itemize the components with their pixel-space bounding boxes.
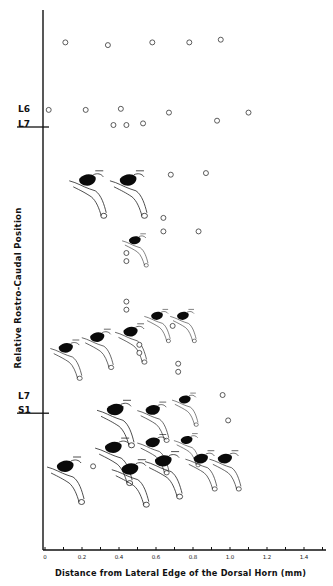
x-tick-label: 0.4 bbox=[115, 554, 124, 560]
open-circle-point bbox=[124, 307, 129, 312]
paw-outline bbox=[141, 213, 147, 218]
receptive-field-fill bbox=[105, 442, 122, 453]
x-tick-label: 1.2 bbox=[263, 554, 272, 560]
open-circle-point bbox=[46, 107, 51, 112]
receptive-field-fill bbox=[79, 174, 96, 185]
open-circle-point bbox=[124, 123, 129, 128]
open-circle-point bbox=[215, 118, 220, 123]
y-axis-label: Relative Rostro-Caudal Position bbox=[13, 188, 23, 388]
hindlimb-drawing bbox=[144, 309, 170, 342]
open-circle-point bbox=[137, 342, 142, 347]
open-circle-point bbox=[137, 350, 142, 355]
open-circle-point bbox=[166, 110, 171, 115]
segment-label-upper-l6: L6 bbox=[18, 104, 30, 114]
x-tick-label: 1.0 bbox=[226, 554, 235, 560]
limb-outline bbox=[189, 464, 213, 489]
segment-label-upper-l7: L7 bbox=[18, 391, 30, 401]
receptive-field-fill bbox=[129, 236, 141, 244]
open-circle-point bbox=[218, 37, 223, 42]
paw-outline bbox=[144, 264, 148, 268]
limb-outline bbox=[149, 468, 177, 497]
hindlimb-drawing bbox=[50, 340, 82, 380]
limb-outline bbox=[136, 460, 146, 466]
receptive-field-fill bbox=[146, 438, 160, 448]
receptive-field-fill bbox=[181, 436, 193, 444]
paw-outline bbox=[109, 365, 114, 369]
open-circle-point bbox=[111, 123, 116, 128]
paw-outline bbox=[164, 438, 169, 442]
x-tick-label: 0.8 bbox=[189, 554, 198, 560]
limb-outline bbox=[71, 457, 81, 463]
open-circle-point bbox=[63, 40, 68, 45]
paw-outline bbox=[143, 502, 149, 507]
segment-label-lower-l7: L7 bbox=[18, 119, 30, 129]
open-circle-point bbox=[176, 369, 181, 374]
hindlimb-drawing bbox=[69, 171, 107, 219]
open-circle-point bbox=[203, 171, 208, 176]
limb-outline bbox=[134, 171, 144, 177]
hindlimb-drawing bbox=[115, 324, 147, 364]
receptive-field-fill bbox=[179, 396, 191, 404]
limb-outline bbox=[169, 452, 179, 458]
hindlimb-drawing bbox=[112, 460, 150, 508]
limb-outline bbox=[187, 309, 194, 313]
open-circle-point bbox=[124, 299, 129, 304]
receptive-field-fill bbox=[155, 455, 172, 466]
receptive-field-fill bbox=[218, 454, 232, 464]
hindlimb-drawing bbox=[145, 452, 183, 500]
limb-outline bbox=[116, 476, 144, 505]
limb-outline bbox=[158, 402, 167, 407]
receptive-field-fill bbox=[194, 454, 208, 464]
open-circle-point bbox=[196, 229, 201, 234]
limb-outline bbox=[175, 404, 195, 424]
hindlimb-drawing bbox=[97, 400, 135, 448]
paw-outline bbox=[212, 487, 217, 491]
receptive-field-fill bbox=[151, 312, 163, 320]
limb-outline bbox=[85, 343, 109, 368]
limb-outline bbox=[139, 234, 146, 238]
x-tick-label: 0.2 bbox=[78, 554, 87, 560]
figure-canvas: 00.20.40.60.81.01.21.4 bbox=[0, 0, 333, 586]
limb-outline bbox=[147, 321, 167, 341]
receptive-field-fill bbox=[57, 461, 74, 472]
limb-outline bbox=[136, 324, 145, 329]
open-circle-point bbox=[91, 464, 96, 469]
open-circle-point bbox=[161, 229, 166, 234]
x-axis-label: Distance from Lateral Edge of the Dorsal… bbox=[0, 568, 333, 578]
paw-outline bbox=[177, 494, 183, 499]
limb-outline bbox=[73, 187, 101, 216]
hindlimb-drawing bbox=[137, 402, 169, 442]
open-circle-points bbox=[46, 37, 251, 469]
limb-outline bbox=[54, 354, 78, 379]
receptive-field-fill bbox=[107, 404, 124, 415]
open-circle-point bbox=[220, 393, 225, 398]
paw-outline bbox=[194, 423, 198, 427]
limb-outline bbox=[102, 329, 111, 334]
open-circle-point bbox=[124, 259, 129, 264]
x-tick-label: 0.6 bbox=[152, 554, 161, 560]
receptive-field-fill bbox=[122, 463, 139, 474]
paw-outline bbox=[129, 443, 135, 448]
open-circle-point bbox=[150, 40, 155, 45]
limb-outline bbox=[51, 473, 79, 502]
limb-outline bbox=[114, 187, 142, 216]
limb-outline bbox=[189, 393, 196, 397]
open-circle-point bbox=[226, 418, 231, 423]
limb-outline bbox=[230, 451, 239, 456]
open-circle-point bbox=[105, 43, 110, 48]
open-circle-point bbox=[118, 106, 123, 111]
paw-outline bbox=[142, 360, 147, 364]
limb-outline bbox=[93, 171, 103, 177]
open-circle-point bbox=[168, 172, 173, 177]
open-circle-point bbox=[83, 107, 88, 112]
receptive-field-fill bbox=[59, 343, 73, 353]
hindlimb-drawing bbox=[47, 457, 85, 505]
paw-outline bbox=[101, 213, 107, 218]
limb-outline bbox=[173, 321, 193, 341]
open-circle-point bbox=[176, 361, 181, 366]
limb-outline bbox=[119, 337, 143, 362]
receptive-field-fill bbox=[90, 332, 104, 342]
x-tick-label: 1.4 bbox=[300, 554, 309, 560]
hindlimb-drawing bbox=[172, 393, 198, 426]
paw-outline bbox=[166, 339, 170, 343]
